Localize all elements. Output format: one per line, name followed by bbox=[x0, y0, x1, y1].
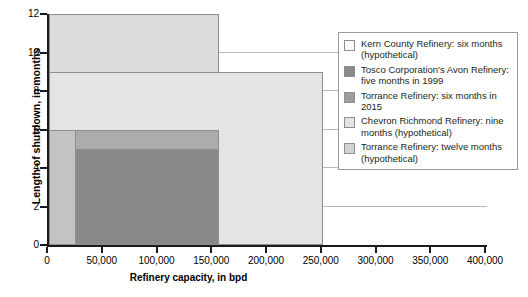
y-tick bbox=[40, 90, 47, 92]
legend-swatch-icon bbox=[344, 117, 355, 128]
x-tick-label: 400,000 bbox=[450, 255, 520, 266]
legend-item-label: Torrance Refinery: six months in 2015 bbox=[361, 90, 512, 113]
legend-swatch-icon bbox=[344, 143, 355, 154]
y-tick-label: 10 bbox=[11, 48, 39, 58]
legend-item-label: Chevron Richmond Refinery: nine months (… bbox=[361, 115, 512, 138]
legend-item: Torrance Refinery: six months in 2015 bbox=[344, 90, 512, 113]
legend-item-label: Torrance Refinery: twelve months (hypoth… bbox=[361, 141, 512, 164]
legend-item-label: Kern County Refinery: six months (hypoth… bbox=[361, 38, 512, 61]
x-tick bbox=[101, 247, 103, 253]
x-tick bbox=[265, 247, 267, 253]
x-axis: 050,000100,000150,000200,000250,000300,0… bbox=[47, 247, 485, 271]
y-tick-label: 8 bbox=[11, 86, 39, 96]
y-tick bbox=[40, 13, 47, 15]
x-axis-title: Refinery capacity, in bpd bbox=[46, 272, 331, 283]
y-tick-label: 2 bbox=[11, 202, 39, 212]
legend-item: Torrance Refinery: twelve months (hypoth… bbox=[344, 141, 512, 164]
y-tick-label: 12 bbox=[11, 9, 39, 19]
legend-item-label: Tosco Corporation's Avon Refinery: five … bbox=[361, 64, 512, 87]
y-tick bbox=[40, 52, 47, 54]
y-tick-label: 0 bbox=[11, 240, 39, 250]
x-tick bbox=[156, 247, 158, 253]
legend-swatch-icon bbox=[344, 40, 355, 51]
legend-swatch-icon bbox=[344, 66, 355, 77]
bar-segment bbox=[49, 130, 76, 246]
y-tick-label: 6 bbox=[11, 125, 39, 135]
y-tick bbox=[40, 206, 47, 208]
x-tick bbox=[210, 247, 212, 253]
y-tick bbox=[40, 167, 47, 169]
bar-segment bbox=[76, 149, 218, 245]
y-axis: 024681012 bbox=[47, 14, 48, 245]
legend-swatch-icon bbox=[344, 92, 355, 103]
chart-figure: Length of shutdown, in months 024681012 … bbox=[0, 0, 528, 297]
chart-legend: Kern County Refinery: six months (hypoth… bbox=[338, 32, 518, 170]
x-tick bbox=[320, 247, 322, 253]
y-tick bbox=[40, 244, 47, 246]
legend-item: Tosco Corporation's Avon Refinery: five … bbox=[344, 64, 512, 87]
x-tick bbox=[429, 247, 431, 253]
legend-item: Chevron Richmond Refinery: nine months (… bbox=[344, 115, 512, 138]
y-tick-label: 4 bbox=[11, 163, 39, 173]
x-tick bbox=[46, 247, 48, 253]
legend-item: Kern County Refinery: six months (hypoth… bbox=[344, 38, 512, 61]
y-tick bbox=[40, 129, 47, 131]
x-tick bbox=[484, 247, 486, 253]
x-tick bbox=[375, 247, 377, 253]
